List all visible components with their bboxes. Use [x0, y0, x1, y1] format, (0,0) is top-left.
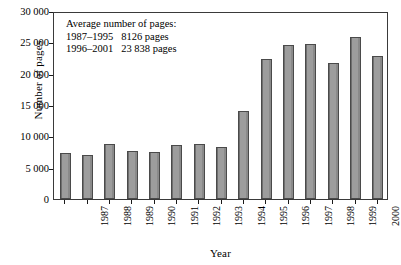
bar	[171, 145, 182, 199]
annotation-line: 1987–1995 8126 pages	[66, 31, 177, 44]
y-axis-tick-label: 15 000	[0, 101, 49, 111]
x-axis-title: Year	[53, 247, 388, 259]
bar	[350, 37, 361, 199]
bar	[60, 153, 71, 199]
x-axis-tick-label: 1988	[123, 206, 133, 246]
x-axis-tick-mark	[288, 200, 289, 204]
x-axis-tick-mark	[265, 200, 266, 204]
x-axis-tick-label: 1993	[234, 206, 244, 246]
x-axis-tick-mark	[198, 200, 199, 204]
bar	[194, 144, 205, 199]
y-axis-tick-label: 10 000	[0, 132, 49, 142]
x-axis-tick-mark	[176, 200, 177, 204]
x-axis-tick-label: 1995	[279, 206, 289, 246]
x-axis-tick-mark	[377, 200, 378, 204]
y-axis-tick-label: 30 000	[0, 7, 49, 17]
x-axis-tick-label: 1996	[301, 206, 311, 246]
x-axis-tick-mark	[332, 200, 333, 204]
x-axis-tick-label: 1989	[145, 206, 155, 246]
annotation-text: Average number of pages:1987–1995 8126 p…	[66, 18, 177, 56]
bar	[283, 45, 294, 199]
x-axis-tick-mark	[154, 200, 155, 204]
plot-area: Average number of pages:1987–1995 8126 p…	[53, 12, 388, 200]
bar	[238, 111, 249, 199]
y-axis-tick-label: 0	[0, 195, 49, 205]
y-axis-tick-labels: 05 00010 00015 00020 00025 00030 000	[0, 0, 49, 265]
bar	[127, 151, 138, 199]
x-axis-tick-label: 1994	[257, 206, 267, 246]
x-axis-tick-mark	[310, 200, 311, 204]
y-axis-tick-label: 25 000	[0, 38, 49, 48]
x-axis-tick-label: 1997	[324, 206, 334, 246]
x-axis-tick-label: 1998	[346, 206, 356, 246]
bar-chart-figure: Number of pages 05 00010 00015 00020 000…	[0, 0, 401, 265]
x-axis-tick-label: 1991	[190, 206, 200, 246]
x-axis-tick-label: 2000	[391, 206, 401, 246]
bar	[104, 144, 115, 199]
bar	[82, 155, 93, 199]
y-axis-tick-label: 20 000	[0, 70, 49, 80]
x-axis-tick-mark	[131, 200, 132, 204]
x-axis-tick-labels: 1987198819891990199119921993199419951996…	[53, 200, 388, 246]
annotation-line: 1996–2001 23 838 pages	[66, 43, 177, 56]
x-axis-tick-mark	[355, 200, 356, 204]
bar	[216, 147, 227, 199]
x-axis-tick-label: 1999	[368, 206, 378, 246]
x-axis-tick-label: 1987	[100, 206, 110, 246]
x-axis-tick-mark	[64, 200, 65, 204]
bar	[305, 44, 316, 199]
x-axis-tick-label: 1990	[167, 206, 177, 246]
bar	[372, 56, 383, 199]
bar	[149, 152, 160, 199]
y-axis-tick-label: 5 000	[0, 164, 49, 174]
annotation-line: Average number of pages:	[66, 18, 177, 31]
x-axis-tick-mark	[221, 200, 222, 204]
x-axis-tick-mark	[109, 200, 110, 204]
x-axis-tick-mark	[87, 200, 88, 204]
x-axis-tick-mark	[243, 200, 244, 204]
x-axis-tick-label: 1992	[212, 206, 222, 246]
bar	[328, 63, 339, 199]
bar	[261, 59, 272, 199]
